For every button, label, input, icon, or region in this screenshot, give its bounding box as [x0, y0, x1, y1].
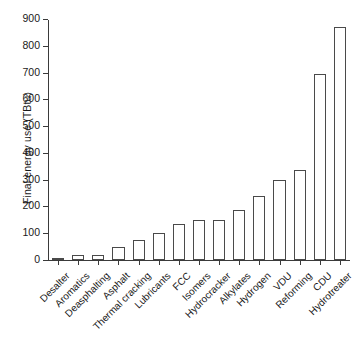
- x-tick-mark: [118, 261, 119, 265]
- x-axis-labels: DesalterAromaticsDeasphaltingAsphaltTher…: [48, 266, 350, 345]
- bar: [213, 220, 225, 260]
- y-tick-label: 200: [22, 199, 40, 211]
- bar: [153, 233, 165, 260]
- y-tick-label: 300: [22, 173, 40, 185]
- y-tick-800: 800: [48, 46, 49, 47]
- y-tick-mark: [43, 180, 48, 181]
- y-tick-mark: [43, 19, 48, 20]
- y-tick-label: 600: [22, 92, 40, 104]
- x-tick-mark: [199, 261, 200, 265]
- x-tick-mark: [280, 261, 281, 265]
- y-tick-label: 800: [22, 39, 40, 51]
- bar: [72, 255, 84, 260]
- y-tick-label: 100: [22, 226, 40, 238]
- y-tick-label: 900: [22, 12, 40, 24]
- y-tick-label: 400: [22, 146, 40, 158]
- y-axis-line: [48, 20, 49, 261]
- bar: [253, 196, 265, 260]
- x-tick-mark: [219, 261, 220, 265]
- y-tick-400: 400: [48, 153, 49, 154]
- y-tick-mark: [43, 206, 48, 207]
- y-tick-mark: [43, 46, 48, 47]
- bar: [294, 170, 306, 260]
- y-tick-mark: [43, 153, 48, 154]
- bar: [314, 74, 326, 260]
- bar-chart: Final energy use (TBtu) 0100200300400500…: [0, 0, 359, 345]
- y-tick-mark: [43, 233, 48, 234]
- y-tick-mark: [43, 260, 48, 261]
- bar: [273, 180, 285, 260]
- x-tick-mark: [340, 261, 341, 265]
- y-tick-100: 100: [48, 233, 49, 234]
- bar: [233, 210, 245, 260]
- y-tick-900: 900: [48, 19, 49, 20]
- x-tick-mark: [58, 261, 59, 265]
- plot-area: 0100200300400500600700800900: [48, 20, 350, 261]
- y-tick-mark: [43, 99, 48, 100]
- x-tick-mark: [259, 261, 260, 265]
- y-tick-200: 200: [48, 206, 49, 207]
- bar: [173, 224, 185, 260]
- x-tick-mark: [78, 261, 79, 265]
- x-tick-mark: [320, 261, 321, 265]
- y-tick-label: 0: [34, 253, 40, 265]
- y-tick-500: 500: [48, 126, 49, 127]
- bar: [52, 258, 64, 260]
- bar: [334, 27, 346, 261]
- y-tick-600: 600: [48, 99, 49, 100]
- x-tick-mark: [179, 261, 180, 265]
- y-tick-label: 500: [22, 119, 40, 131]
- x-tick-mark: [98, 261, 99, 265]
- x-tick-mark: [139, 261, 140, 265]
- y-tick-mark: [43, 126, 48, 127]
- y-tick-label: 700: [22, 66, 40, 78]
- y-tick-0: 0: [48, 260, 49, 261]
- bar: [92, 255, 104, 260]
- bar: [133, 240, 145, 260]
- bar: [193, 220, 205, 260]
- x-tick-mark: [239, 261, 240, 265]
- x-tick-mark: [159, 261, 160, 265]
- x-tick-mark: [300, 261, 301, 265]
- y-tick-mark: [43, 73, 48, 74]
- bar: [112, 247, 124, 260]
- y-tick-700: 700: [48, 73, 49, 74]
- y-tick-300: 300: [48, 180, 49, 181]
